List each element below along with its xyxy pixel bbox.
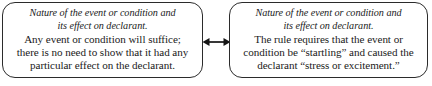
double-headed-arrow-icon [202, 33, 231, 51]
node-left-body: Any event or condition will suffice; the… [17, 33, 188, 72]
comparison-diagram: Nature of the event or condition and its… [0, 0, 432, 86]
node-right-body: The rule requires that the event or cond… [243, 33, 413, 72]
node-right-heading: Nature of the event or condition and its… [255, 7, 401, 31]
node-left-heading: Nature of the event or condition and its… [29, 7, 175, 31]
diagram-node-left: Nature of the event or condition and its… [2, 2, 203, 78]
diagram-node-right: Nature of the event or condition and its… [229, 2, 428, 78]
